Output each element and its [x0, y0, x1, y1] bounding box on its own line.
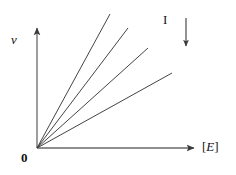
data-line-2 — [37, 28, 128, 148]
origin-label: 0 — [21, 151, 28, 164]
x-axis-label: [E] — [202, 140, 219, 153]
inhibitor-annotation-label: I — [163, 13, 167, 26]
bracket-close: ] — [214, 139, 218, 154]
enzyme-velocity-plot: v [E] 0 I — [0, 0, 236, 175]
data-line-3 — [37, 48, 148, 148]
plot-canvas — [0, 0, 236, 175]
y-axis-label: v — [11, 33, 17, 46]
